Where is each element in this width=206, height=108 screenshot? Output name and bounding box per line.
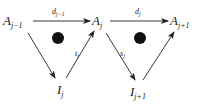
edge-label-d-cur: dj [135, 7, 141, 17]
triangle-diagram: Aj−1 Aj Aj+1 Ij Ij+1 dj−1 dj tj sj [0, 0, 206, 108]
face-right-dot [134, 32, 146, 44]
edge-label-s: sj [120, 49, 125, 59]
edge-label-t: tj [75, 49, 79, 59]
edge-label-d-prev: dj−1 [52, 7, 65, 17]
edge-Icur-Acur [66, 31, 94, 78]
edge-Inext-Anext [143, 32, 174, 80]
node-I-cur: Ij [56, 82, 64, 99]
edge-Aprev-Icur [28, 33, 55, 78]
node-A-next: Aj+1 [169, 13, 190, 30]
node-I-next: Ij+1 [129, 84, 146, 101]
node-A-prev: Aj−1 [2, 13, 23, 30]
node-A-cur: Aj [91, 13, 103, 30]
face-left-dot [52, 32, 64, 44]
